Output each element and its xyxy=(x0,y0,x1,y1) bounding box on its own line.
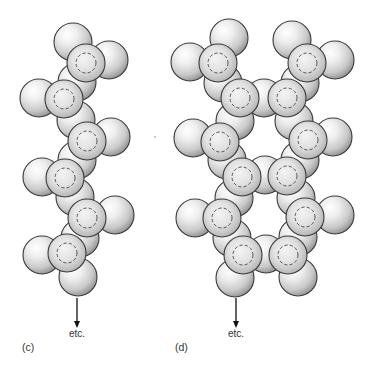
tetrahedron-front-sphere xyxy=(201,123,239,161)
oxygen-sphere xyxy=(223,158,261,196)
tetrahedron-front-sphere xyxy=(199,44,237,82)
panel-c-single-chain: etc. (c) xyxy=(20,23,134,353)
tetrahedron-front-sphere xyxy=(269,236,307,274)
tetrahedron-front-sphere xyxy=(48,234,86,272)
panel-label-c: (c) xyxy=(22,341,34,353)
continuation-label: etc. xyxy=(69,328,85,339)
oxygen-sphere xyxy=(46,159,84,197)
oxygen-sphere xyxy=(68,199,106,237)
oxygen-sphere xyxy=(224,236,262,274)
oxygen-sphere xyxy=(289,121,327,159)
oxygen-sphere xyxy=(45,80,83,118)
oxygen-sphere xyxy=(288,44,326,82)
tetrahedron-front-sphere xyxy=(289,121,327,159)
tetrahedron-front-sphere xyxy=(45,80,83,118)
oxygen-sphere xyxy=(286,198,324,236)
tetrahedron-front-sphere xyxy=(268,157,306,195)
oxygen-sphere xyxy=(269,236,307,274)
tetrahedron-front-sphere xyxy=(288,44,326,82)
arrow-down-icon xyxy=(74,321,80,328)
oxygen-sphere xyxy=(221,79,259,117)
tetrahedron-front-sphere xyxy=(203,199,241,237)
oxygen-sphere xyxy=(68,122,106,160)
oxygen-sphere xyxy=(268,157,306,195)
tetrahedron-front-sphere xyxy=(68,199,106,237)
tetrahedron-front-sphere xyxy=(68,122,106,160)
silicate-chain-diagram: etc. (c) etc. (d) xyxy=(0,0,370,371)
stray-dot xyxy=(154,136,156,138)
tetrahedron-front-sphere xyxy=(224,236,262,274)
arrow-down-icon xyxy=(233,321,239,328)
tetrahedron-front-sphere xyxy=(46,159,84,197)
tetrahedron-front-sphere xyxy=(286,198,324,236)
oxygen-sphere xyxy=(199,44,237,82)
oxygen-sphere xyxy=(67,44,105,82)
oxygen-sphere xyxy=(48,234,86,272)
continuation-arrow xyxy=(233,298,239,328)
tetrahedron-front-sphere xyxy=(221,79,259,117)
panel-label-d: (d) xyxy=(175,341,188,353)
oxygen-sphere xyxy=(203,199,241,237)
tetrahedron-front-sphere xyxy=(67,44,105,82)
tetrahedron-front-sphere xyxy=(268,79,306,117)
oxygen-sphere xyxy=(268,79,306,117)
continuation-label: etc. xyxy=(228,328,244,339)
continuation-arrow xyxy=(74,298,80,328)
panel-d-double-chain: etc. (d) xyxy=(171,19,354,353)
tetrahedron-front-sphere xyxy=(223,158,261,196)
oxygen-sphere xyxy=(201,123,239,161)
